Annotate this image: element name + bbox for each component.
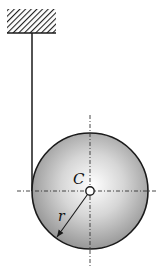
- hatched-ceiling: [7, 9, 56, 33]
- center-label: C: [73, 170, 85, 188]
- disk-string-diagram: C r: [0, 0, 166, 276]
- center-pin: [86, 187, 94, 195]
- ceiling-support: [7, 9, 56, 33]
